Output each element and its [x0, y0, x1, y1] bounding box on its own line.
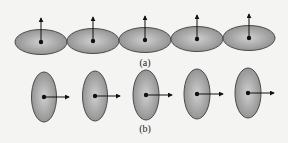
center-dot-icon — [91, 39, 95, 43]
panel-b-vertical-ellipses — [32, 68, 275, 122]
panel-a-molecule-5 — [223, 14, 275, 51]
center-dot-icon — [144, 93, 148, 97]
panel-a-molecule-2 — [67, 17, 119, 54]
panel-a-horizontal-ellipses — [15, 14, 275, 55]
panel-a-molecule-1 — [15, 18, 67, 55]
center-dot-icon — [93, 94, 97, 98]
center-dot-icon — [195, 92, 199, 96]
center-dot-icon — [39, 40, 43, 44]
panel-b-molecule-5 — [235, 68, 274, 118]
molecule-orientation-diagram — [0, 0, 288, 143]
panel-b-molecule-4 — [184, 69, 223, 119]
diagram-canvas: (a) (b) — [0, 0, 288, 143]
panel-b-label: (b) — [139, 124, 151, 134]
panel-a-molecule-4 — [171, 15, 223, 52]
panel-a-label: (a) — [139, 58, 150, 68]
center-dot-icon — [42, 95, 46, 99]
center-dot-icon — [247, 36, 251, 40]
center-dot-icon — [246, 91, 250, 95]
center-dot-icon — [143, 38, 147, 42]
panel-b-molecule-2 — [83, 71, 121, 121]
panel-b-molecule-1 — [32, 72, 70, 122]
panel-a-molecule-3 — [119, 16, 171, 53]
panel-b-molecule-3 — [133, 70, 172, 120]
center-dot-icon — [195, 37, 199, 41]
